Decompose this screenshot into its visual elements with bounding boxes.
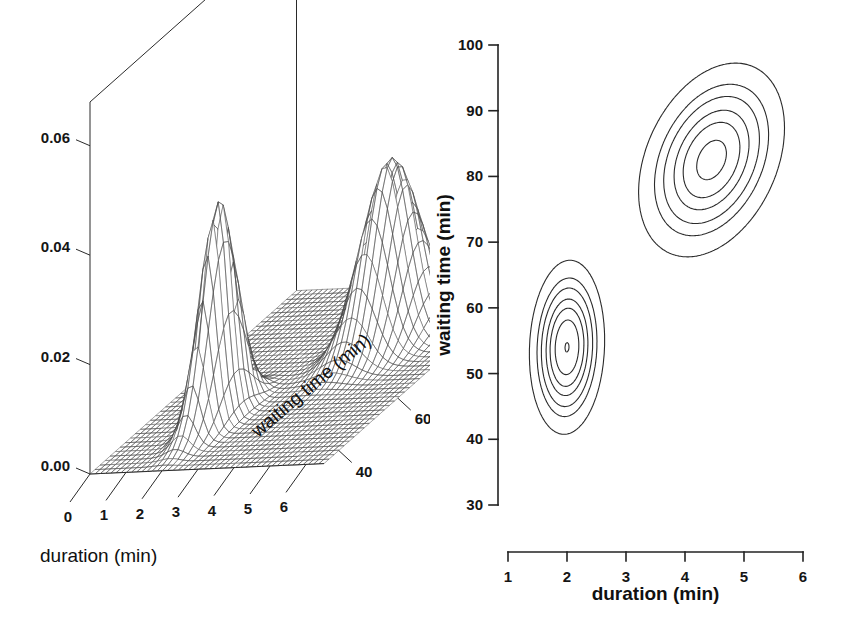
x-tick-label: 0 bbox=[64, 508, 72, 525]
x-tick-label: 4 bbox=[208, 502, 217, 519]
x-tick-label: 6 bbox=[799, 568, 807, 585]
x-axis-title: duration (min) bbox=[592, 583, 720, 604]
z-tick-label: 0.04 bbox=[41, 238, 71, 255]
x-tick-label: 5 bbox=[244, 500, 252, 517]
x-axis-title: duration (min) bbox=[40, 545, 157, 566]
contour-line bbox=[546, 299, 588, 396]
contour-line bbox=[565, 343, 569, 352]
y-tick-label: 40 bbox=[466, 430, 483, 447]
y-tick-label: 70 bbox=[466, 233, 483, 250]
contour-line bbox=[529, 260, 604, 434]
x-tick-label: 2 bbox=[136, 505, 144, 522]
contour-line bbox=[664, 97, 760, 224]
perspective-surface-panel: 0.000.020.040.060123456406080100duration… bbox=[0, 0, 430, 631]
x-tick-label: 5 bbox=[740, 568, 748, 585]
z-tick-label: 0.00 bbox=[41, 457, 70, 474]
z-tick-label: 0.06 bbox=[41, 129, 70, 146]
contour-line bbox=[555, 320, 579, 375]
x-tick-label: 1 bbox=[504, 568, 512, 585]
contour-lines bbox=[529, 63, 784, 434]
y-tick-label: 60 bbox=[466, 299, 483, 316]
contour-line bbox=[683, 122, 740, 197]
contour-line bbox=[541, 288, 592, 407]
z-tick-label: 0.02 bbox=[41, 348, 70, 365]
contour-line bbox=[697, 140, 727, 179]
figure-root: 0.000.020.040.060123456406080100duration… bbox=[0, 0, 853, 631]
contour-line bbox=[639, 63, 785, 257]
y-tick-label: 30 bbox=[466, 496, 483, 513]
y-axis-title-text: waiting time (min) bbox=[433, 194, 454, 357]
x-tick-label: 1 bbox=[100, 506, 108, 523]
x-tick-label: 6 bbox=[280, 498, 288, 515]
y-tick-label: 60 bbox=[415, 410, 430, 427]
y-axis-title: waiting time (min) bbox=[433, 194, 454, 357]
contour-panel: 30405060708090100123456duration (min)wai… bbox=[430, 0, 853, 631]
y-tick-label: 40 bbox=[356, 463, 373, 480]
y-tick-label: 90 bbox=[466, 102, 483, 119]
y-tick-label: 100 bbox=[458, 36, 483, 53]
y-tick-label: 80 bbox=[466, 167, 483, 184]
z-axis-ticks: 0.000.020.040.06 bbox=[41, 129, 90, 474]
y-tick-label: 50 bbox=[466, 365, 483, 382]
x-tick-label: 3 bbox=[172, 503, 180, 520]
axes: 30405060708090100123456 bbox=[458, 36, 807, 585]
contour-line bbox=[655, 84, 769, 235]
x-tick-label: 2 bbox=[563, 568, 571, 585]
